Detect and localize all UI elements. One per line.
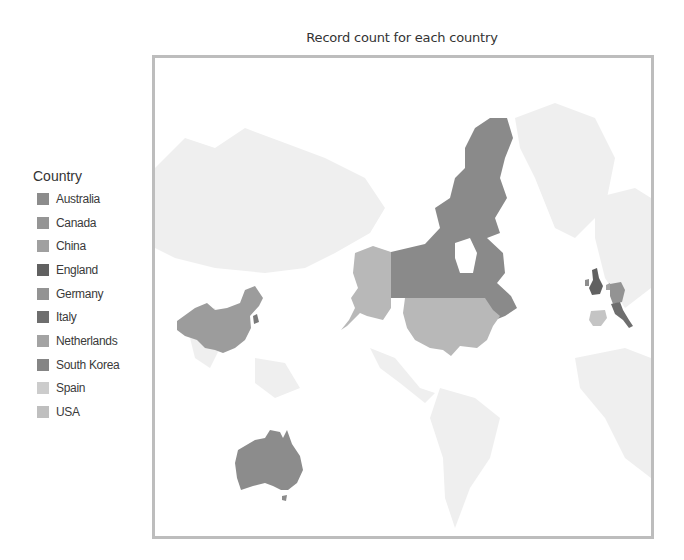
region-south-korea[interactable]: [253, 314, 259, 324]
legend-item-netherlands[interactable]: Netherlands: [37, 329, 119, 353]
region-china[interactable]: [177, 286, 263, 353]
legend-label: USA: [56, 405, 80, 419]
region-australia[interactable]: [235, 430, 303, 490]
legend-item-england[interactable]: England: [37, 258, 119, 282]
world-map[interactable]: [155, 58, 651, 536]
legend-label: Germany: [56, 287, 103, 301]
legend-swatch: [37, 288, 49, 300]
legend-swatch: [37, 217, 49, 229]
legend-swatch: [37, 264, 49, 276]
legend-label: Australia: [56, 192, 100, 206]
legend-item-china[interactable]: China: [37, 234, 119, 258]
legend-swatch: [37, 359, 49, 371]
chart-title: Record count for each country: [152, 30, 652, 45]
legend-swatch: [37, 240, 49, 252]
legend-swatch: [37, 193, 49, 205]
legend-item-germany[interactable]: Germany: [37, 282, 119, 306]
legend-swatch: [37, 311, 49, 323]
legend-label: Netherlands: [56, 334, 117, 348]
region-italy[interactable]: [611, 302, 633, 328]
legend-label: China: [56, 239, 86, 253]
region-ireland: [585, 279, 589, 286]
legend-label: Spain: [56, 381, 85, 395]
legend-item-italy[interactable]: Italy: [37, 305, 119, 329]
map-frame: [152, 55, 654, 539]
region-spain[interactable]: [589, 310, 607, 326]
legend-swatch: [37, 406, 49, 418]
legend-swatch: [37, 382, 49, 394]
legend-item-spain[interactable]: Spain: [37, 377, 119, 401]
legend-label: Canada: [56, 216, 96, 230]
region-tasmania-australia[interactable]: [282, 495, 287, 501]
legend-label: England: [56, 263, 98, 277]
legend-item-canada[interactable]: Canada: [37, 211, 119, 235]
legend-swatch: [37, 335, 49, 347]
region-usa[interactable]: [403, 298, 500, 356]
legend-item-south-korea[interactable]: South Korea: [37, 353, 119, 377]
legend-label: South Korea: [56, 358, 119, 372]
region-england[interactable]: [589, 268, 603, 295]
region-canada[interactable]: [391, 118, 517, 320]
region-alaska-usa[interactable]: [341, 246, 391, 330]
legend-item-usa[interactable]: USA: [37, 400, 119, 424]
legend-title: Country: [33, 168, 119, 184]
legend-label: Italy: [56, 310, 77, 324]
legend-item-australia[interactable]: Australia: [37, 187, 119, 211]
legend: Country Australia Canada China England G…: [33, 168, 119, 424]
